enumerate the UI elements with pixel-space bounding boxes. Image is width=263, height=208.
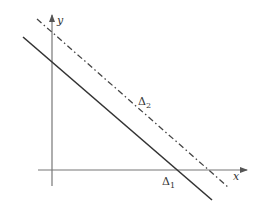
delta-2-label: Δ2 xyxy=(138,95,151,110)
line-delta-2 xyxy=(37,19,228,187)
line-delta-1 xyxy=(23,37,212,200)
x-axis-label: x xyxy=(233,170,240,183)
delta-1-label: Δ1 xyxy=(162,175,175,190)
y-axis-label: y xyxy=(56,14,64,27)
coordinate-diagram: y x Δ2 Δ1 xyxy=(0,0,263,208)
